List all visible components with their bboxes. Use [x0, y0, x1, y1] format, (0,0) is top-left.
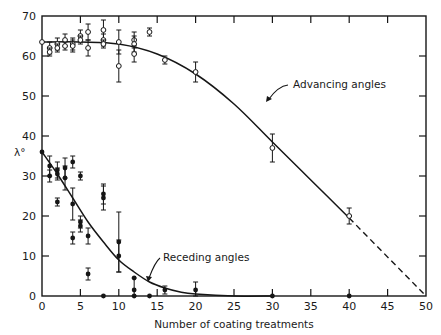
receding-point-marker — [78, 224, 83, 229]
advancing-point-marker — [47, 50, 52, 55]
advancing-arrow — [269, 85, 288, 99]
receding-point-marker — [40, 150, 45, 155]
x-tick-label: 45 — [381, 300, 395, 313]
advancing-point-marker — [193, 70, 198, 75]
receding-point-marker — [78, 174, 83, 179]
advancing-point-marker — [101, 28, 106, 33]
advancing-point-marker — [162, 58, 167, 63]
receding-point-marker — [162, 288, 167, 293]
advancing-point-marker — [40, 40, 45, 45]
receding-point-marker — [270, 294, 275, 299]
receding-point-marker — [147, 294, 152, 299]
receding-point-marker — [347, 294, 352, 299]
receding-point-marker — [132, 288, 137, 293]
advancing-angles-label: Advancing angles — [293, 78, 386, 90]
x-tick-label: 30 — [265, 300, 279, 313]
y-tick-label: 0 — [29, 290, 36, 303]
receding-point-marker — [55, 200, 60, 205]
receding-point-marker — [132, 294, 137, 299]
advancing-point-marker — [55, 46, 60, 51]
curve-annotations: Advancing anglesReceding angles — [146, 78, 386, 282]
advancing-extrapolation-dashed — [349, 218, 426, 296]
receding-angles-label: Receding angles — [163, 251, 249, 263]
x-tick-label: 40 — [342, 300, 356, 313]
y-tick-label: 30 — [22, 170, 36, 183]
receding-arrow — [149, 258, 160, 278]
advancing-point-marker — [116, 64, 121, 69]
receding-point-marker — [55, 172, 60, 177]
receding-point-marker — [70, 160, 75, 165]
advancing-point-marker — [147, 30, 152, 35]
x-axis-label: Number of coating treatments — [154, 318, 313, 330]
receding-point-marker — [86, 272, 91, 277]
x-tick-label: 50 — [419, 300, 433, 313]
advancing-point-marker — [116, 40, 121, 45]
receding-fit-curve — [42, 152, 272, 296]
contact-angle-chart: 05101520253035404550010203040506070 Adva… — [0, 0, 441, 335]
receding-point-marker — [101, 196, 106, 201]
receding-point-marker — [47, 164, 52, 169]
advancing-point-marker — [86, 30, 91, 35]
receding-point-marker — [70, 202, 75, 207]
advancing-point-marker — [78, 38, 83, 43]
y-tick-label: 50 — [22, 90, 36, 103]
receding-point-marker — [101, 294, 106, 299]
x-tick-label: 35 — [304, 300, 318, 313]
y-tick-label: 10 — [22, 250, 36, 263]
x-tick-label: 15 — [150, 300, 164, 313]
y-tick-label: 70 — [22, 10, 36, 23]
receding-point-marker — [70, 236, 75, 241]
receding-point-marker — [116, 254, 121, 259]
x-tick-label: 0 — [39, 300, 46, 313]
advancing-point-marker — [347, 214, 352, 219]
advancing-point-marker — [270, 146, 275, 151]
x-tick-label: 25 — [227, 300, 241, 313]
advancing-point-marker — [86, 46, 91, 51]
advancing-point-marker — [101, 42, 106, 47]
receding-point-marker — [86, 234, 91, 239]
y-axis-label: λ° — [14, 146, 25, 158]
y-tick-label: 20 — [22, 210, 36, 223]
receding-point-marker — [63, 176, 68, 181]
receding-point-marker — [193, 288, 198, 293]
x-tick-label: 5 — [77, 300, 84, 313]
advancing-point-marker — [132, 52, 137, 57]
x-tick-label: 20 — [189, 300, 203, 313]
axis-ticks: 05101520253035404550010203040506070 — [22, 10, 433, 313]
y-tick-label: 60 — [22, 50, 36, 63]
x-tick-label: 10 — [112, 300, 126, 313]
advancing-point-marker — [63, 44, 68, 49]
advancing-point-marker — [70, 44, 75, 49]
y-tick-label: 40 — [22, 130, 36, 143]
